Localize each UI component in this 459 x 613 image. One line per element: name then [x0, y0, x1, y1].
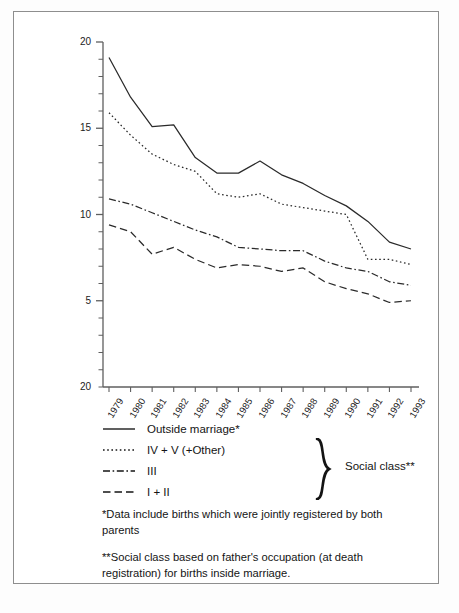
figure-frame: Death rate per 1000 live births 20151052…	[13, 11, 439, 584]
legend-item-label: III	[147, 465, 157, 477]
legend-item: IV + V (+Other)	[102, 439, 402, 460]
series-line-2	[109, 113, 411, 265]
figure-page: Death rate per 1000 live births 20151052…	[0, 0, 459, 613]
chart-legend: Outside marriage*IV + V (+Other)IIII + I…	[102, 418, 402, 502]
legend-item-label: I + II	[147, 486, 170, 498]
legend-item-label: IV + V (+Other)	[147, 444, 225, 456]
y-tick-label: 5	[69, 295, 91, 306]
legend-item-label: Outside marriage*	[147, 423, 240, 435]
series-line-1	[109, 58, 411, 249]
y-tick-label: 15	[69, 122, 91, 133]
footnote-social-class-note: **Social class based on father's occupat…	[102, 549, 422, 581]
y-tick-label: 10	[69, 209, 91, 220]
legend-line-swatch	[102, 486, 136, 498]
series-line-4	[109, 225, 411, 303]
legend-line-swatch	[102, 465, 136, 477]
footnote-data-note: *Data include births which were jointly …	[102, 506, 422, 538]
legend-item: I + II	[102, 481, 402, 502]
y-tick-label: 20	[69, 36, 91, 47]
legend-group-label: Social class**	[345, 460, 415, 472]
curly-brace-icon	[314, 438, 340, 500]
chart-area: Death rate per 1000 live births 20151052…	[14, 12, 440, 422]
legend-item: Outside marriage*	[102, 418, 402, 439]
y-axis-origin-label: 20	[69, 381, 91, 392]
legend-line-swatch	[102, 444, 136, 456]
series-line-3	[109, 199, 411, 285]
legend-line-swatch	[102, 423, 136, 435]
